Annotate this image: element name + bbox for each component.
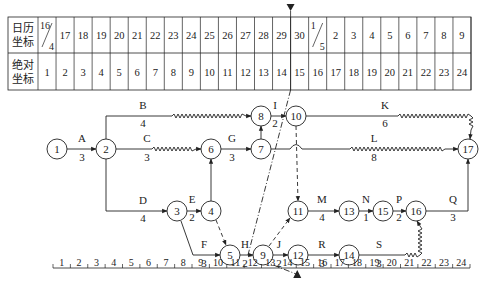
svg-text:3: 3 (229, 151, 235, 163)
calendar-cell: 7 (423, 30, 428, 41)
svg-text:K: K (381, 99, 389, 111)
absolute-cell: 14 (276, 67, 287, 78)
time-scale-table: 日历坐标绝对坐标16417181920212223242526272829301… (8, 4, 471, 90)
absolute-cell: 4 (99, 67, 105, 78)
event-node-11: 11 (288, 201, 308, 221)
activity-L (271, 145, 350, 150)
ruler-tick-label: 2 (77, 257, 82, 268)
svg-text:6: 6 (208, 143, 214, 155)
svg-text:D: D (139, 194, 147, 206)
ruler-tick-label: 16 (317, 257, 327, 268)
svg-text:11: 11 (293, 205, 304, 217)
absolute-coordinate-label: 绝对 (12, 58, 34, 72)
ruler-tick-label: 17 (335, 257, 345, 268)
svg-text:5: 5 (320, 41, 325, 52)
event-node-13: 13 (339, 201, 359, 221)
absolute-cell: 19 (367, 67, 378, 78)
activity-label-P: P2 (396, 193, 402, 223)
svg-text:B: B (139, 99, 146, 111)
svg-text:R: R (318, 238, 326, 250)
svg-text:16: 16 (411, 205, 423, 217)
activity-label-B: B4 (139, 99, 146, 129)
calendar-cell: 18 (78, 30, 89, 41)
svg-text:8: 8 (371, 151, 377, 163)
ruler-tick-label: 24 (456, 257, 466, 268)
calendar-cell: 25 (204, 30, 215, 41)
absolute-cell: 13 (258, 67, 269, 78)
ruler-tick-label: 11 (231, 257, 241, 268)
svg-text:10: 10 (291, 110, 303, 122)
calendar-cell: 20 (114, 30, 125, 41)
activity-B (106, 116, 172, 139)
ruler-tick-label: 7 (163, 257, 168, 268)
absolute-cell: 18 (348, 67, 359, 78)
svg-text:L: L (371, 132, 378, 144)
ruler-tick-label: 12 (248, 257, 258, 268)
calendar-cell: 2 (333, 30, 338, 41)
absolute-cell: 1 (44, 67, 49, 78)
check-line-top-marker-icon (287, 4, 295, 11)
calendar-cell: 29 (276, 30, 287, 41)
time-scaled-network-diagram: 日历坐标绝对坐标16417181920212223242526272829301… (0, 0, 486, 288)
ruler-tick-label: 19 (369, 257, 379, 268)
absolute-cell: 15 (294, 67, 305, 78)
ruler-tick-label: 9 (198, 257, 203, 268)
ruler-tick-label: 5 (129, 257, 134, 268)
absolute-cell: 5 (117, 67, 122, 78)
absolute-cell: 7 (153, 67, 158, 78)
svg-text:H: H (241, 238, 249, 250)
svg-text:I: I (273, 99, 277, 111)
svg-text:N: N (362, 193, 370, 205)
svg-text:2: 2 (272, 117, 278, 129)
activity-C-float (152, 147, 196, 151)
event-node-3: 3 (167, 201, 187, 221)
svg-text:F: F (201, 238, 207, 250)
svg-text:S: S (376, 238, 382, 250)
svg-text:2: 2 (189, 211, 195, 223)
svg-text:P: P (396, 193, 402, 205)
activity-label-A: A3 (78, 132, 86, 163)
event-node-16: 16 (406, 201, 426, 221)
ruler-tick-label: 4 (111, 257, 116, 268)
svg-text:3: 3 (450, 211, 456, 223)
ruler-tick-label: 3 (94, 257, 99, 268)
calendar-cell: 27 (240, 30, 251, 41)
svg-text:4: 4 (319, 211, 325, 223)
absolute-cell: 21 (403, 67, 414, 78)
calendar-cell: 21 (132, 30, 143, 41)
check-line-bottom-marker-icon (293, 270, 301, 278)
event-node-1: 1 (47, 139, 67, 159)
activity-label-K: K6 (381, 99, 389, 129)
svg-text:C: C (143, 132, 150, 144)
ruler-tick-label: 21 (404, 257, 414, 268)
ruler-tick-label: 13 (265, 257, 275, 268)
event-node-8: 8 (251, 106, 271, 126)
absolute-cell: 17 (330, 67, 341, 78)
calendar-cell: 17 (60, 30, 71, 41)
svg-text:4: 4 (140, 117, 146, 129)
ruler-tick-label: 23 (439, 257, 449, 268)
ruler-tick-label: 10 (213, 257, 223, 268)
calendar-cell: 19 (96, 30, 107, 41)
activity-Q (426, 159, 468, 211)
svg-text:坐标: 坐标 (12, 35, 34, 49)
absolute-cell: 11 (222, 67, 232, 78)
svg-text:2: 2 (396, 211, 402, 223)
activity-labels: A3B4C3D4E2F3G3H2I2J2K6L8M4N1P2Q3R3S3 (78, 99, 457, 269)
absolute-cell: 20 (385, 67, 396, 78)
dummy-10-11 (296, 126, 298, 201)
calendar-cell: 23 (168, 30, 179, 41)
absolute-cell: 10 (204, 67, 215, 78)
svg-text:Q: Q (449, 193, 457, 205)
activity-label-M: M4 (317, 193, 327, 223)
absolute-cell: 16 (312, 67, 323, 78)
svg-text:1: 1 (54, 143, 60, 155)
absolute-cell: 9 (189, 67, 194, 78)
activity-B-float (172, 114, 246, 118)
calendar-cell: 4 (369, 30, 375, 41)
svg-text:M: M (317, 193, 327, 205)
svg-text:1: 1 (363, 211, 369, 223)
event-node-2: 2 (96, 139, 116, 159)
ruler-tick-label: 15 (300, 257, 310, 268)
absolute-cell: 23 (439, 67, 450, 78)
